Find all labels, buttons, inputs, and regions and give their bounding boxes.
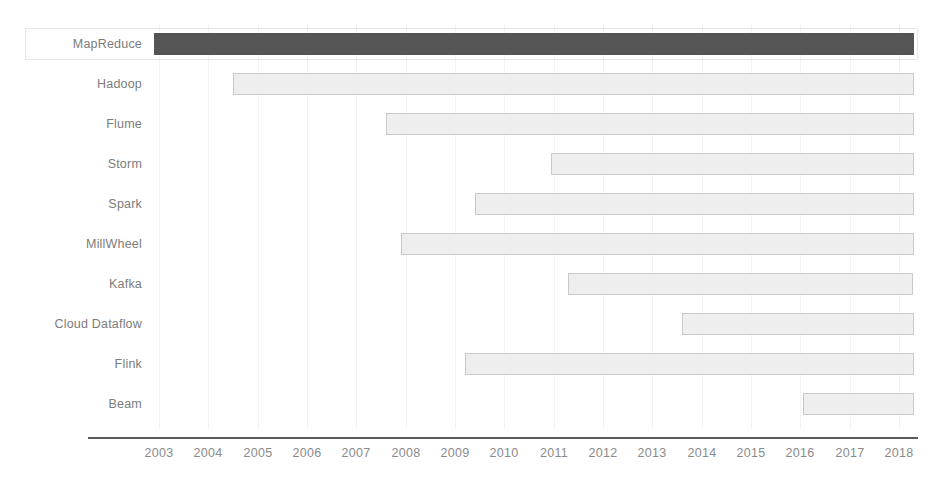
timeline-bar[interactable] — [233, 73, 914, 95]
x-axis-tick-label: 2018 — [884, 446, 913, 460]
timeline-bar[interactable] — [568, 273, 913, 295]
x-axis-tick-label: 2015 — [736, 446, 765, 460]
timeline-row[interactable]: Spark — [0, 184, 941, 224]
timeline-bar[interactable] — [682, 313, 914, 335]
row-label: Cloud Dataflow — [0, 304, 142, 344]
x-axis-tick-label: 2005 — [243, 446, 272, 460]
x-axis-tick-label: 2004 — [193, 446, 222, 460]
x-axis-tick-label: 2016 — [785, 446, 814, 460]
x-axis-tick-label: 2009 — [440, 446, 469, 460]
timeline-bar[interactable] — [386, 113, 914, 135]
timeline-row[interactable]: Flink — [0, 344, 941, 384]
row-label: Hadoop — [0, 64, 142, 104]
x-axis-tick-label: 2013 — [637, 446, 666, 460]
x-axis-line — [88, 437, 918, 439]
row-label: Kafka — [0, 264, 142, 304]
x-axis-tick-label: 2008 — [391, 446, 420, 460]
timeline-row[interactable]: MillWheel — [0, 224, 941, 264]
row-label: MillWheel — [0, 224, 142, 264]
timeline-bar[interactable] — [401, 233, 914, 255]
timeline-bar[interactable] — [475, 193, 914, 215]
x-axis-tick-label: 2014 — [687, 446, 716, 460]
timeline-row[interactable]: Kafka — [0, 264, 941, 304]
x-axis-tick-label: 2003 — [144, 446, 173, 460]
plot-area: MapReduceHadoopFlumeStormSparkMillWheelK… — [0, 0, 941, 482]
selection-highlight-box — [25, 28, 918, 60]
timeline-row[interactable]: Storm — [0, 144, 941, 184]
row-label: Spark — [0, 184, 142, 224]
timeline-bar[interactable] — [803, 393, 914, 415]
x-axis-tick-label: 2010 — [489, 446, 518, 460]
row-label: Flink — [0, 344, 142, 384]
timeline-row[interactable]: Flume — [0, 104, 941, 144]
row-label: Flume — [0, 104, 142, 144]
timeline-row[interactable]: Hadoop — [0, 64, 941, 104]
timeline-gantt-chart: MapReduceHadoopFlumeStormSparkMillWheelK… — [0, 0, 941, 482]
row-label: Beam — [0, 384, 142, 424]
timeline-row[interactable]: Cloud Dataflow — [0, 304, 941, 344]
timeline-row[interactable]: Beam — [0, 384, 941, 424]
x-axis-tick-label: 2006 — [292, 446, 321, 460]
timeline-bar[interactable] — [551, 153, 914, 175]
x-axis-tick-label: 2012 — [588, 446, 617, 460]
x-axis-tick-label: 2011 — [540, 446, 568, 460]
x-axis-tick-label: 2007 — [341, 446, 370, 460]
row-label: Storm — [0, 144, 142, 184]
x-axis-tick-label: 2017 — [835, 446, 864, 460]
timeline-bar[interactable] — [465, 353, 914, 375]
